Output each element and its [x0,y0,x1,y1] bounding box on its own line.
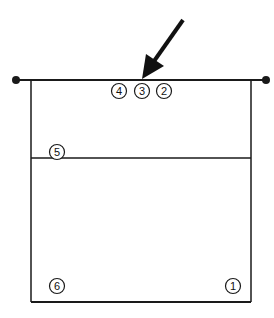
volleyball-court-diagram: 432561 [0,0,274,318]
net-post-right [262,76,270,84]
player-position-3: 3 [135,84,150,99]
player-position-1: 1 [226,279,241,294]
arrow-shaft [152,20,183,64]
player-number: 4 [116,85,122,97]
arrow-head [142,54,164,79]
player-number: 1 [230,280,236,292]
player-position-5: 5 [50,145,65,160]
player-position-4: 4 [112,84,127,99]
player-number: 3 [139,85,145,97]
player-number: 6 [54,280,60,292]
player-number: 5 [54,146,60,158]
net-post-left [12,76,20,84]
player-position-2: 2 [157,84,172,99]
player-number: 2 [161,85,167,97]
player-position-6: 6 [50,279,65,294]
